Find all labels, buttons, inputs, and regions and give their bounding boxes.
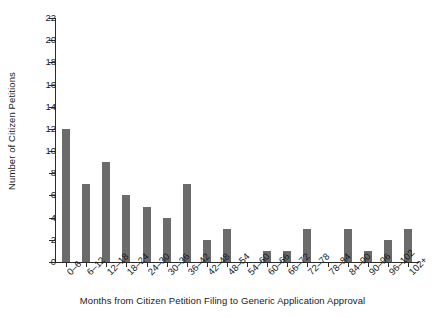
x-axis-title: Months from Citizen Petition Filing to G…: [0, 295, 445, 306]
x-tick-label: 60–66: [266, 251, 292, 277]
bar-chart: Number of Citizen Petitions 024681012141…: [0, 0, 445, 318]
x-tick-label: 66–72: [286, 251, 312, 277]
x-tick-label: 12–18: [105, 251, 131, 277]
x-axis-ticks: 0–66–1212–1818–2424–3030–3636–4242–4848–…: [0, 0, 445, 318]
x-tick-label: 6–12: [85, 255, 107, 277]
x-tick-label: 0–6: [65, 259, 83, 277]
